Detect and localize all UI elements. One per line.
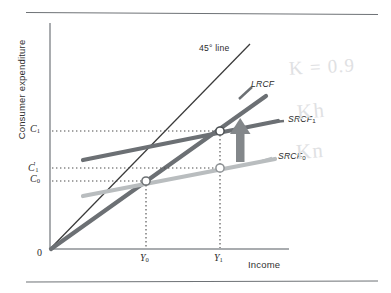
x-tick-y1-sub: 1 xyxy=(220,256,223,263)
y-tick-c1-sub: 1 xyxy=(37,127,40,134)
label-45-degree-line: 45° line xyxy=(199,43,229,53)
y-tick-c1: C1 xyxy=(30,123,40,134)
series-lrcf-line xyxy=(51,96,266,249)
x-axis-label: Income xyxy=(248,259,280,270)
point-b-y1-c1 xyxy=(216,127,224,135)
handwritten-note-k-value: K = 0.9 xyxy=(288,54,355,79)
y-tick-c1-base: C xyxy=(30,123,37,134)
label-lrcf: LRCF xyxy=(251,79,274,89)
x-tick-y1: Y1 xyxy=(214,252,223,263)
upward-shift-arrow xyxy=(230,118,251,162)
point-a-y0-c0 xyxy=(142,177,150,185)
x-tick-y0-sub: 0 xyxy=(146,256,149,263)
origin-label: 0 xyxy=(37,247,42,258)
leader-srcf1 xyxy=(274,121,284,122)
chart-canvas xyxy=(0,0,391,293)
y-tick-c0-base: C xyxy=(30,173,37,184)
figure-page: Consumer expenditure Income 0 C1 C'1 C0 … xyxy=(0,0,391,293)
handwritten-note-kn: Kn xyxy=(295,138,325,165)
series-srcf1-line xyxy=(83,121,278,160)
y-tick-c0-sub: 0 xyxy=(37,177,40,184)
point-bprime-y1-c1prime xyxy=(216,164,224,172)
y-tick-c1-prime: C'1 xyxy=(28,160,39,173)
x-tick-y0: Y0 xyxy=(140,252,149,263)
y-tick-c1-prime-sub: 1 xyxy=(35,166,38,173)
series-srcf0-line xyxy=(83,159,275,196)
y-tick-c0: C0 xyxy=(30,173,40,184)
handwritten-note-kh: Kh xyxy=(296,98,326,125)
y-axis-label: Consumer expenditure xyxy=(16,25,27,155)
